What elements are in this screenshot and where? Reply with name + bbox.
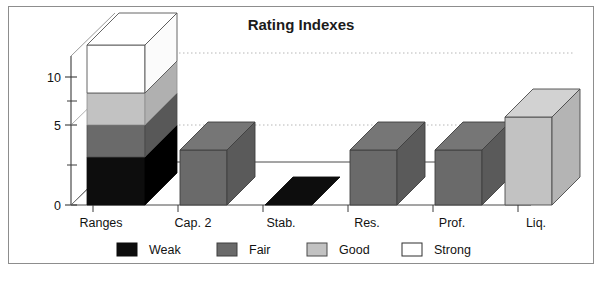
x-axis: Ranges Cap. 2 Stab. Res. Prof. Liq.: [79, 205, 546, 230]
bar-liq[interactable]: [505, 89, 580, 205]
legend-item-weak[interactable]: Weak: [117, 243, 181, 257]
x-axis-label-liq: Liq.: [526, 216, 546, 230]
x-axis-label-res: Res.: [354, 216, 380, 230]
bar-ranges-fair-front: [87, 125, 145, 157]
chart-legend: Weak Fair Good Strong: [117, 243, 471, 257]
legend-item-fair[interactable]: Fair: [217, 243, 271, 257]
y-axis-label-5: 5: [54, 119, 61, 133]
bar-liq-front: [505, 117, 552, 205]
bar-ranges[interactable]: [87, 13, 177, 205]
bar-ranges-good-front: [87, 93, 145, 125]
bar-cap2-front: [180, 150, 227, 205]
y-axis-label-0: 0: [54, 199, 61, 213]
screenshot-page: Rating Indexes: [0, 0, 614, 283]
legend-item-good[interactable]: Good: [307, 243, 370, 257]
legend-swatch-fair: [217, 243, 237, 256]
rating-indexes-chart: Rating Indexes: [9, 7, 593, 263]
y-axis-label-10: 10: [47, 71, 61, 85]
bar-ranges-strong-front: [87, 45, 145, 93]
x-axis-label-cap2: Cap. 2: [175, 216, 212, 230]
legend-swatch-strong: [402, 243, 422, 256]
legend-label-good: Good: [339, 243, 370, 257]
legend-item-strong[interactable]: Strong: [402, 243, 471, 257]
bar-ranges-weak-front: [87, 157, 145, 205]
chart-frame: Rating Indexes: [8, 6, 594, 264]
x-axis-label-prof: Prof.: [439, 216, 465, 230]
x-axis-label-ranges: Ranges: [79, 216, 122, 230]
legend-label-weak: Weak: [149, 243, 181, 257]
legend-swatch-good: [307, 243, 327, 256]
legend-label-fair: Fair: [249, 243, 271, 257]
bar-prof-front: [435, 150, 482, 205]
legend-label-strong: Strong: [434, 243, 471, 257]
chart-title: Rating Indexes: [248, 16, 355, 33]
bar-res-front: [350, 150, 397, 205]
gridlines: [115, 53, 575, 125]
x-axis-label-stab: Stab.: [266, 216, 295, 230]
legend-swatch-weak: [117, 243, 137, 256]
